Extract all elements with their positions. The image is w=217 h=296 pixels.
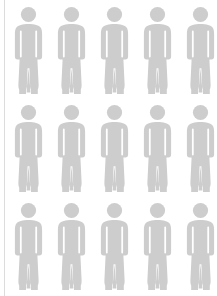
person-icon bbox=[12, 6, 45, 94]
person-icon bbox=[141, 6, 174, 94]
person-icon bbox=[12, 104, 45, 192]
pictogram-row-1 bbox=[0, 6, 217, 94]
person-icon bbox=[184, 104, 217, 192]
pictogram-row-2 bbox=[0, 104, 217, 192]
person-icon bbox=[98, 6, 131, 94]
person-icon bbox=[55, 104, 88, 192]
pictogram-row-3 bbox=[0, 202, 217, 290]
pictogram-figure-grid bbox=[0, 0, 217, 296]
person-icon bbox=[55, 6, 88, 94]
pictogram-canvas bbox=[0, 0, 217, 296]
person-icon bbox=[184, 6, 217, 94]
person-icon bbox=[55, 202, 88, 290]
person-icon bbox=[98, 104, 131, 192]
person-icon bbox=[98, 202, 131, 290]
person-icon bbox=[141, 104, 174, 192]
person-icon bbox=[12, 202, 45, 290]
person-icon bbox=[141, 202, 174, 290]
person-icon bbox=[184, 202, 217, 290]
